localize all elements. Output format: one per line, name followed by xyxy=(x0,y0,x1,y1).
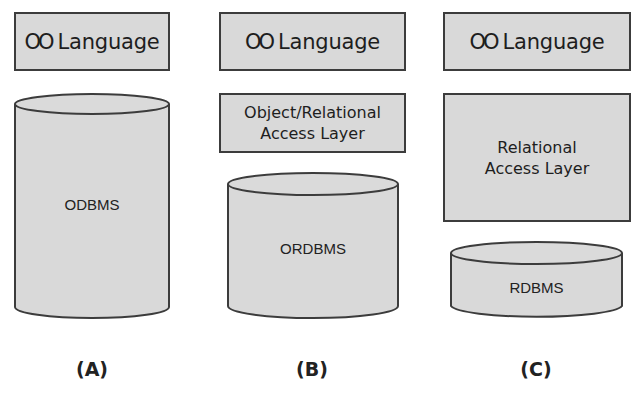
access-layer-line2: Access Layer xyxy=(485,158,589,179)
oo-symbol: OO xyxy=(24,30,51,54)
access-layer-line2: Access Layer xyxy=(260,123,364,144)
rdbms-label: RDBMS xyxy=(450,279,623,296)
relational-access-layer-box: Relational Access Layer xyxy=(443,93,631,222)
language-label: Language xyxy=(503,30,605,54)
caption-b: (B) xyxy=(282,358,342,380)
access-layer-line1: Object/Relational xyxy=(244,102,381,123)
odbms-label: ODBMS xyxy=(14,196,170,213)
language-label: Language xyxy=(58,30,160,54)
language-label: Language xyxy=(278,30,380,54)
oo-symbol: OO xyxy=(245,30,272,54)
access-layer-line1: Relational xyxy=(497,137,576,158)
caption-a: (A) xyxy=(62,358,122,380)
object-relational-access-layer-box: Object/Relational Access Layer xyxy=(219,93,406,153)
caption-c: (C) xyxy=(506,358,566,380)
ordbms-label: ORDBMS xyxy=(227,240,399,257)
language-box-b: OO Language xyxy=(219,12,406,71)
language-box-a: OO Language xyxy=(14,12,170,71)
language-box-c: OO Language xyxy=(443,12,631,71)
oo-symbol: OO xyxy=(469,30,496,54)
